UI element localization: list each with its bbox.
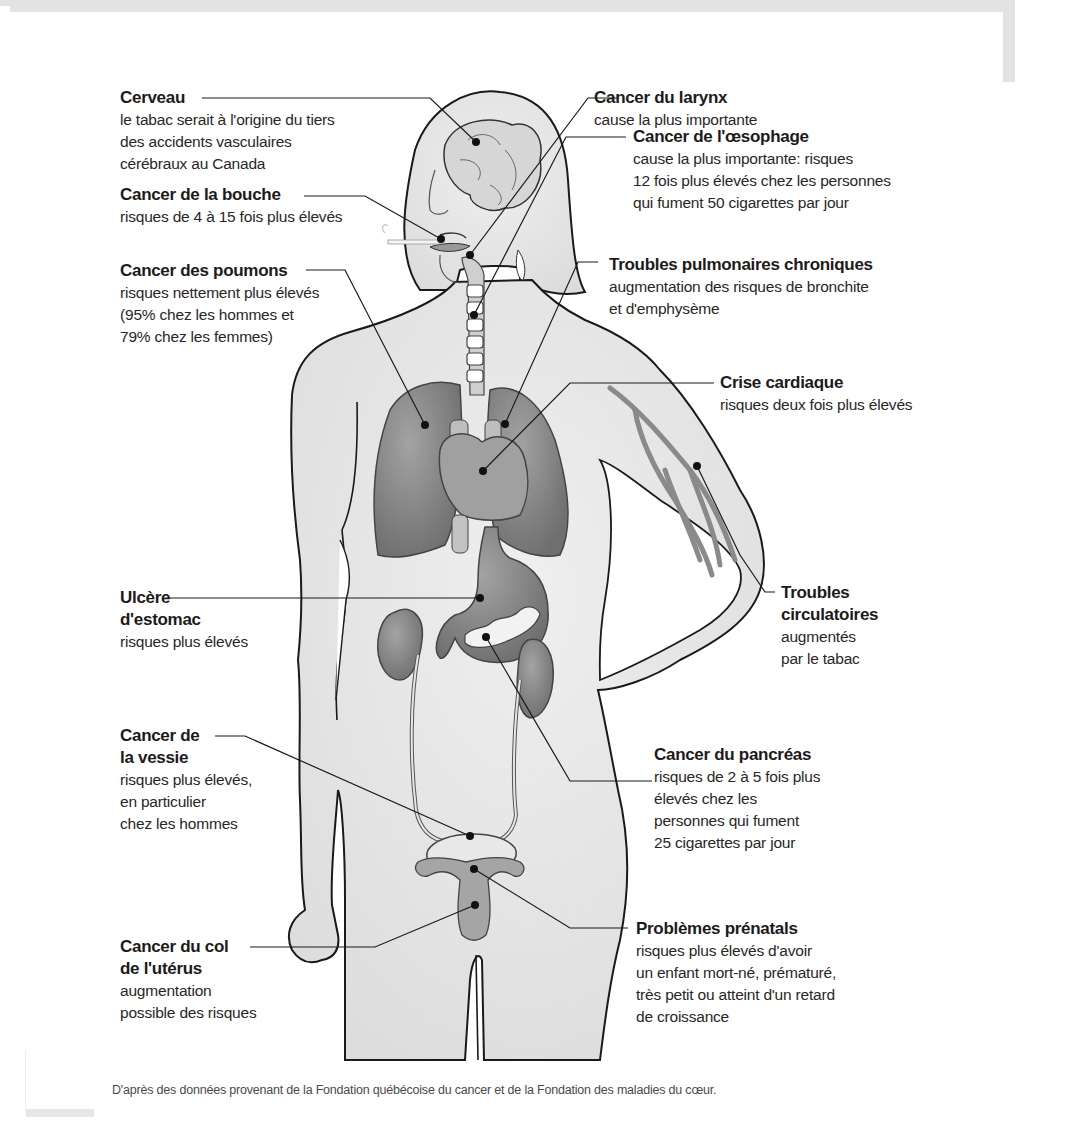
label-description: augmentation possible des risques [120,980,256,1024]
label-larynx: Cancer du larynx cause la plus important… [594,87,757,131]
label-title: Cerveau [120,87,335,109]
label-bouche: Cancer de la bouche risques de 4 à 15 fo… [120,184,342,228]
label-title: Cancer des poumons [120,260,319,282]
label-title: Cancer de l'œsophage [633,126,891,148]
label-description: risques de 4 à 15 fois plus élevés [120,206,342,228]
label-title: Ulcère d'estomac [120,587,248,631]
label-description: risques nettement plus élevés (95% chez … [120,282,319,348]
label-oesophage: Cancer de l'œsophage cause la plus impor… [633,126,891,214]
label-col-uterus: Cancer du col de l'utérus augmentation p… [120,936,256,1024]
label-vessie: Cancer de la vessie risques plus élevés,… [120,725,252,835]
label-title: Cancer du pancréas [654,744,820,766]
label-prenatals: Problèmes prénatals risques plus élevés … [636,918,836,1028]
label-description: risques plus élevés d'avoir un enfant mo… [636,940,836,1028]
label-title: Cancer de la vessie [120,725,252,769]
label-description: augmentés par le tabac [781,626,878,670]
label-cardiaque: Crise cardiaque risques deux fois plus é… [720,372,912,416]
label-description: cause la plus importante: risques 12 foi… [633,148,891,214]
source-footnote: D'après des données provenant de la Fond… [112,1083,716,1097]
label-title: Troubles circulatoires [781,582,878,626]
label-circulatoires: Troubles circulatoires augmentés par le … [781,582,878,670]
label-description: le tabac serait à l'origine du tiers des… [120,109,335,175]
label-pancreas: Cancer du pancréas risques de 2 à 5 fois… [654,744,820,854]
label-description: risques plus élevés, en particulier chez… [120,769,252,835]
label-title: Crise cardiaque [720,372,912,394]
label-pulmonaires: Troubles pulmonaires chroniques augmenta… [609,254,873,320]
label-title: Cancer de la bouche [120,184,342,206]
label-title: Troubles pulmonaires chroniques [609,254,873,276]
label-cerveau: Cerveau le tabac serait à l'origine du t… [120,87,335,175]
label-description: risques plus élevés [120,631,248,653]
label-title: Problèmes prénatals [636,918,836,940]
label-poumons: Cancer des poumons risques nettement plu… [120,260,319,348]
label-ulcere: Ulcère d'estomac risques plus élevés [120,587,248,653]
label-title: Cancer du col de l'utérus [120,936,256,980]
label-title: Cancer du larynx [594,87,757,109]
label-description: augmentation des risques de bronchite et… [609,276,873,320]
label-description: risques de 2 à 5 fois plus élevés chez l… [654,766,820,854]
cigarette-icon [388,240,440,244]
label-description: risques deux fois plus élevés [720,394,912,416]
